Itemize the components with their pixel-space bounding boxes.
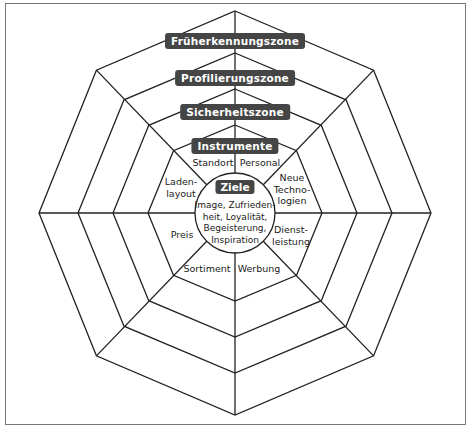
zone-label-profilierung: Profilierungszone [175, 70, 295, 86]
center-title-ziele: Ziele [215, 180, 254, 194]
instrument-neue-technologien: Neue Techno- logien [274, 172, 311, 207]
instrument-standort: Standort [192, 157, 233, 169]
instrument-sortiment: Sortiment [184, 263, 231, 275]
zone-label-instrumente: Instrumente [191, 138, 278, 154]
instrument-dienstleistung: Dienst- leistung [272, 224, 310, 247]
zone-label-sicherheit: Sicherheitszone [180, 104, 290, 120]
instrument-personal: Personal [240, 157, 280, 169]
zone-label-fruehkennung: Früherkennungszone [165, 33, 305, 49]
center-goals-text: Image, Zufrieden- heit, Loyalität, Begei… [195, 200, 276, 246]
instrument-preis: Preis [171, 229, 194, 241]
instrument-werbung: Werbung [238, 263, 281, 275]
instrument-ladenlayout: Laden- layout [165, 176, 197, 199]
